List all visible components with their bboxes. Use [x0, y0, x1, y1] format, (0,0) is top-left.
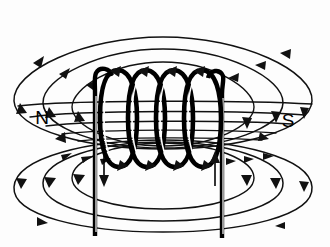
field-arrowhead: [299, 181, 309, 192]
field-arrowhead: [242, 117, 252, 129]
field-arrowhead: [73, 174, 85, 185]
solenoid-coil: [100, 66, 221, 171]
field-arrowhead: [37, 217, 48, 226]
right-current-arrow: [210, 151, 220, 186]
field-arrowhead: [244, 156, 254, 163]
field-arrowhead: [255, 61, 266, 70]
field-arrowhead: [226, 158, 236, 165]
field-arrowhead: [280, 49, 291, 59]
north-pole-label: N: [35, 107, 49, 128]
solenoid-field-diagram: N S: [0, 0, 330, 247]
field-arrowhead: [16, 178, 27, 189]
field-arrowhead: [270, 178, 281, 189]
field-arrowhead: [275, 222, 285, 229]
field-arrowhead: [44, 177, 56, 188]
south-pole-label: S: [282, 110, 295, 131]
field-arrowhead: [241, 175, 252, 186]
core-field-line: [46, 121, 292, 126]
diagram-canvas: N S: [0, 0, 330, 247]
core-field-line: [30, 111, 305, 117]
